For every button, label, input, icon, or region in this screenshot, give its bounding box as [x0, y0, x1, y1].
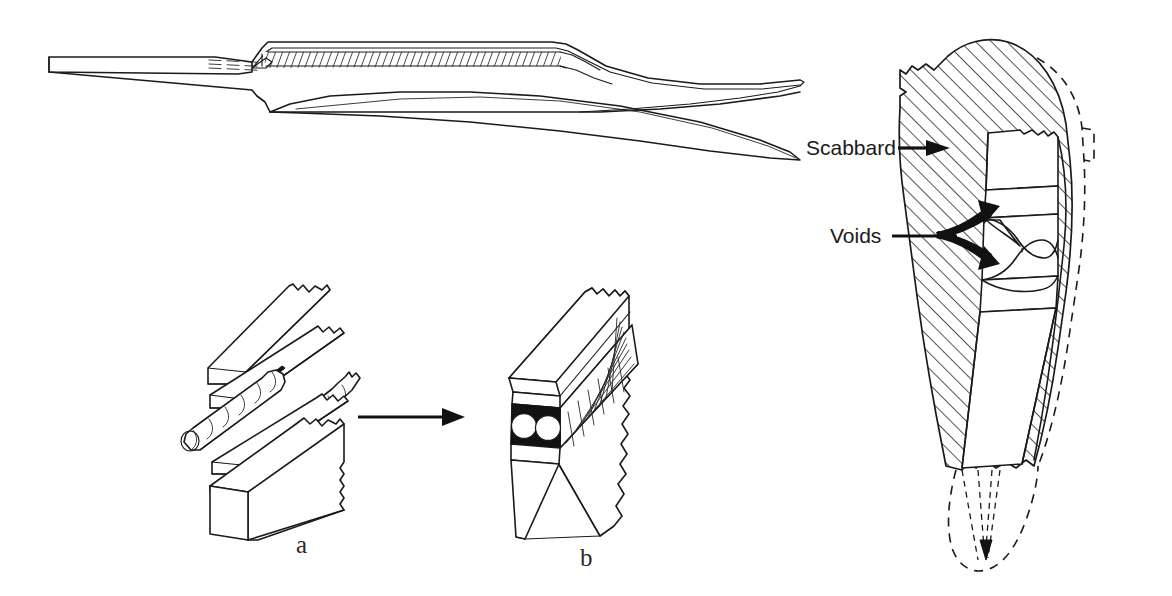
panel-a-letter: a [296, 531, 307, 558]
transform-arrow [358, 408, 465, 426]
figure-root: a [0, 0, 1172, 596]
voids-arrow-fork-node [951, 234, 957, 238]
end-face-taper [511, 460, 559, 539]
void-circle-right [536, 416, 561, 441]
voids-label: Voids [830, 224, 881, 247]
blade-spine-hatch [258, 46, 568, 72]
scabbard-label: Scabbard [806, 136, 896, 159]
blade-tip-dashed-arrowhead [980, 540, 992, 560]
panel-b-letter: b [580, 544, 593, 571]
tang-lower-edge [49, 72, 270, 112]
blade-tip-dashed-left [962, 470, 978, 560]
void-circle-left [512, 414, 537, 439]
blade-tip-dashed-mid-left [978, 470, 984, 548]
assembled-billet [509, 288, 638, 539]
blade-point [580, 80, 804, 112]
exploded-billet-assembly [181, 284, 360, 540]
billet-bottom-edge [525, 536, 600, 539]
sword-tang [49, 57, 252, 74]
blade-third-band [980, 276, 1058, 312]
scabbard-cross-section [899, 40, 1094, 571]
blade-upper-block [986, 130, 1058, 190]
sword-side-profile [49, 42, 804, 160]
bar-bottom-end-face [210, 486, 248, 540]
billet-end-face [509, 378, 561, 539]
diagram-canvas: a [0, 0, 1172, 596]
blade-lower-belly [270, 92, 800, 160]
blade-second-band [984, 186, 1058, 218]
